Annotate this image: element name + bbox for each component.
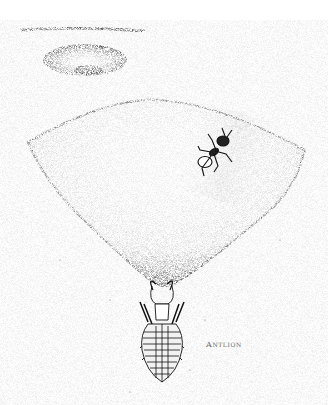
figure-caption-label: Antlion (206, 340, 242, 349)
antlion-illustration (0, 0, 328, 405)
